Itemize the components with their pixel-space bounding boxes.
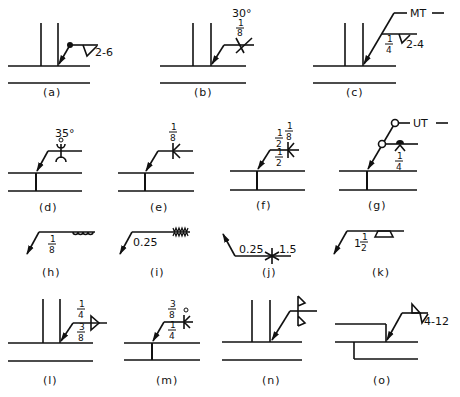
- caption-k: (k): [372, 266, 390, 279]
- double-u-groove-icon: [56, 144, 66, 162]
- melt-thru-icon: [396, 140, 404, 144]
- panel-f: 1 8 1 2 1 2 (f): [230, 121, 305, 212]
- caption-g: (g): [368, 199, 387, 212]
- caption-l: (l): [43, 374, 58, 387]
- weld-all-around-icon: [379, 141, 386, 148]
- svg-text:1: 1: [277, 128, 283, 138]
- svg-text:8: 8: [49, 245, 55, 255]
- caption-a: (a): [43, 86, 61, 99]
- panel-i: 0.25 (i): [120, 228, 190, 279]
- d-angle: 35°: [55, 127, 75, 140]
- g-test: UT: [413, 117, 428, 130]
- svg-text:8: 8: [169, 310, 175, 320]
- panel-n: (n): [222, 296, 317, 387]
- panel-h: 1 8 (h): [27, 232, 95, 279]
- c-label: 2-4: [406, 38, 424, 51]
- panel-g: UT 1 4 (g): [339, 117, 448, 212]
- caption-d: (d): [39, 201, 58, 214]
- panel-a: 2-6 (a): [8, 23, 113, 99]
- svg-text:1: 1: [387, 34, 393, 44]
- panel-k: 1 1 2 (k): [334, 231, 404, 279]
- panel-c: MT 1 4 2-4 (c): [313, 7, 444, 99]
- panel-o: 4-12 (o): [335, 304, 449, 387]
- svg-text:4: 4: [386, 45, 392, 55]
- j-left: 0.25: [239, 243, 264, 256]
- panel-j: 0.25 1.5 (j): [223, 234, 297, 279]
- svg-text:8: 8: [78, 333, 84, 343]
- plug-weld-icon: [375, 231, 393, 237]
- panel-m: 3 8 1 4 (m): [124, 299, 200, 387]
- panel-l: 1 4 3 8 (l): [8, 299, 107, 387]
- caption-n: (n): [262, 374, 281, 387]
- svg-text:1: 1: [170, 320, 176, 330]
- svg-text:1: 1: [277, 147, 283, 157]
- j-right: 1.5: [279, 243, 297, 256]
- weld-all-around-icon: [392, 120, 399, 127]
- svg-text:3: 3: [170, 299, 176, 309]
- svg-text:1: 1: [171, 122, 177, 132]
- svg-text:3: 3: [79, 322, 85, 332]
- caption-f: (f): [256, 199, 271, 212]
- caption-b: (b): [194, 86, 213, 99]
- svg-text:1: 1: [79, 299, 85, 309]
- svg-text:1: 1: [238, 18, 244, 28]
- svg-text:1: 1: [287, 121, 293, 131]
- caption-h: (h): [42, 266, 61, 279]
- caption-c: (c): [346, 86, 364, 99]
- svg-text:1: 1: [50, 234, 56, 244]
- fillet-top-icon: [412, 304, 420, 313]
- caption-i: (i): [150, 266, 165, 279]
- welding-symbols-figure: 2-6 (a) 30° 1 8 (b) MT 1 4 2-4 (c): [0, 0, 460, 397]
- caption-j: (j): [262, 266, 277, 279]
- svg-text:8: 8: [170, 133, 176, 143]
- o-label: 4-12: [424, 315, 449, 328]
- i-size: 0.25: [133, 236, 158, 249]
- svg-text:2: 2: [276, 158, 282, 168]
- weld-all-around-icon: [67, 42, 73, 48]
- svg-text:1: 1: [362, 232, 368, 242]
- panel-d: 35° (d): [8, 127, 82, 214]
- caption-e: (e): [150, 201, 168, 214]
- caption-m: (m): [156, 374, 178, 387]
- panel-b: 30° 1 8 (b): [160, 7, 254, 99]
- svg-text:2: 2: [361, 243, 367, 253]
- caption-o: (o): [373, 374, 391, 387]
- svg-text:1: 1: [397, 151, 403, 161]
- svg-text:4: 4: [78, 310, 84, 320]
- svg-text:4: 4: [169, 331, 175, 341]
- svg-text:4: 4: [396, 162, 402, 172]
- svg-text:8: 8: [237, 28, 243, 38]
- panel-e: 1 8 (e): [118, 122, 194, 214]
- svg-text:1: 1: [354, 237, 361, 250]
- a-label: 2-6: [95, 46, 113, 59]
- svg-text:8: 8: [286, 132, 292, 142]
- c-test: MT: [410, 7, 426, 20]
- field-weld-icon: [184, 308, 188, 312]
